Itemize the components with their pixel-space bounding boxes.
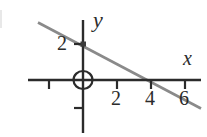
x-axis-label: x [183,48,192,68]
x-tick-label-4: 4 [145,88,155,108]
x-tick-label-2: 2 [111,88,121,108]
y-intercept-point-marker [81,42,87,47]
y-tick-label-2: 2 [57,33,67,53]
y-axis-label: y [93,9,103,31]
coordinate-plane [0,0,207,137]
graph-figure: y x 2 2 4 6 [0,0,207,137]
x-tick-label-6: 6 [179,88,189,108]
